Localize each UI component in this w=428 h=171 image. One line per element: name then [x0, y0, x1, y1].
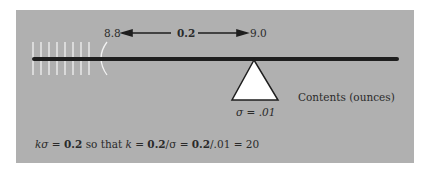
- range-high-label: 9.0: [250, 27, 267, 39]
- axis-label: Contents (ounces): [298, 91, 395, 103]
- sigma-label: σ = .01: [236, 106, 275, 118]
- range-low-label: 8.8: [104, 27, 121, 39]
- formula-part1: kσ =: [35, 138, 64, 150]
- formula-part4: /σ =: [166, 138, 192, 150]
- range-width-label: 0.2: [177, 27, 195, 39]
- formula-text: kσ = 0.2 so that k = 0.2/σ = 0.2/.01 = 2…: [35, 138, 259, 150]
- fulcrum-triangle: [232, 60, 278, 100]
- formula-part5: /.01 = 20: [210, 138, 259, 150]
- formula-bold3: 0.2: [192, 138, 210, 150]
- formula-part2: so that: [82, 138, 125, 150]
- formula-part3: k =: [125, 138, 147, 150]
- formula-bold2: 0.2: [147, 138, 165, 150]
- formula-bold1: 0.2: [64, 138, 82, 150]
